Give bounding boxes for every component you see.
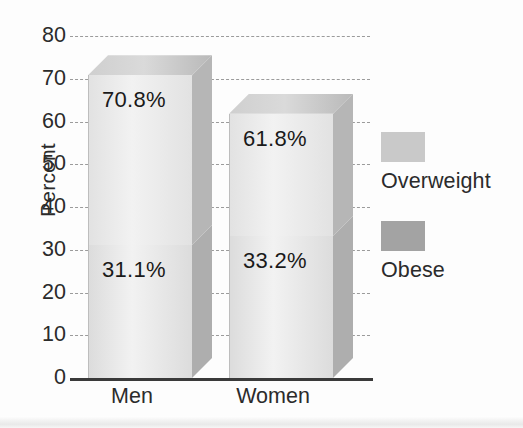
chart-container: Percent 80706050403020100 70.8%31.1%61.8…	[0, 0, 523, 428]
value-label-women-overweight: 61.8%	[243, 126, 307, 152]
legend-label-obese: Obese	[381, 258, 491, 283]
scan-artifact-band	[0, 416, 523, 428]
y-axis-title: Percent	[36, 120, 60, 240]
value-label-men-obese: 31.1%	[102, 257, 166, 283]
legend-entry-overweight[interactable]: Overweight	[381, 132, 491, 194]
y-tick-label-70: 70	[20, 68, 66, 90]
value-label-women-obese: 33.2%	[243, 248, 307, 274]
bar-men-overweight-side-face	[192, 55, 212, 245]
y-tick-label-30: 30	[20, 239, 66, 261]
legend: Overweight Obese	[381, 132, 491, 283]
x-axis-label-men: Men	[62, 384, 202, 409]
bar-women-obese-side-face	[333, 216, 353, 378]
value-label-men-overweight: 70.8%	[102, 87, 166, 113]
x-axis-label-women: Women	[203, 384, 343, 409]
y-tick-label-80: 80	[20, 25, 66, 47]
bar-men-top-face	[88, 55, 212, 75]
gridline-80	[70, 36, 370, 37]
y-tick-label-60: 60	[20, 111, 66, 133]
x-axis-line	[70, 378, 373, 381]
legend-swatch-obese	[381, 221, 425, 251]
legend-label-overweight: Overweight	[381, 169, 491, 194]
bar-women-top-face	[229, 94, 353, 114]
legend-entry-obese[interactable]: Obese	[381, 221, 491, 283]
bar-women-overweight-side-face	[333, 94, 353, 236]
legend-swatch-overweight	[381, 132, 425, 162]
y-tick-label-40: 40	[20, 196, 66, 218]
y-tick-label-50: 50	[20, 153, 66, 175]
bar-men-obese-side-face	[192, 225, 212, 378]
y-tick-label-0: 0	[20, 367, 66, 389]
y-tick-label-10: 10	[20, 324, 66, 346]
y-tick-label-20: 20	[20, 282, 66, 304]
